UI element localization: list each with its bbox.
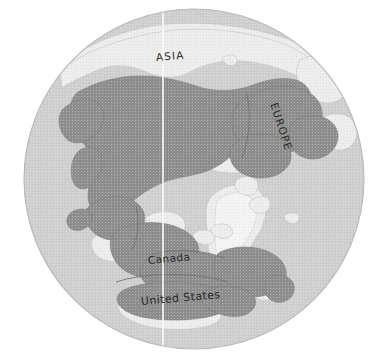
globe-svg xyxy=(0,0,384,358)
halftone-texture-overlay xyxy=(24,9,364,349)
globe-map: ASIA EUROPE Canada United States xyxy=(0,0,384,358)
